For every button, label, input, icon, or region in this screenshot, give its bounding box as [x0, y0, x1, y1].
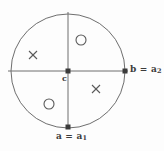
circle-diagram-figure: c b = a2 a = a1: [0, 0, 164, 151]
bottom-point-marker: [66, 125, 71, 130]
right-point-label: b = a2: [130, 65, 162, 75]
right-point-label-subscript: 2: [157, 67, 162, 75]
cross-lower-right-icon: [92, 85, 100, 93]
diagram-canvas: [0, 0, 164, 151]
bottom-point-label: a = a1: [56, 132, 87, 142]
center-point-label: c: [62, 74, 67, 82]
open-circle-lower-left-icon: [44, 99, 54, 109]
center-point-label-text: c: [62, 73, 67, 83]
cross-upper-left-icon: [29, 51, 37, 59]
right-point-label-lead: b = a: [130, 64, 157, 74]
right-point-marker: [123, 69, 128, 74]
open-circle-upper-right-icon: [76, 35, 86, 45]
bottom-point-label-subscript: 1: [82, 134, 87, 142]
bottom-point-label-lead: a = a: [56, 131, 82, 141]
